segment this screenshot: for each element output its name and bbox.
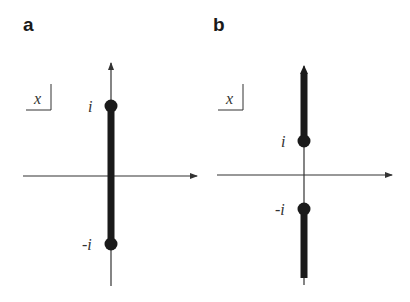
point-i-a: [105, 100, 118, 113]
label-i-a: i: [88, 98, 92, 115]
label-minus-i-a: -i: [82, 236, 92, 253]
point-minus-i-b: [298, 203, 311, 216]
variable-box-b: x: [218, 84, 243, 110]
variable-x-b: x: [225, 90, 233, 107]
variable-x-a: x: [33, 90, 41, 107]
panel-a: i -i x: [23, 63, 197, 286]
branch-cut-b-upper-arrow: [300, 65, 308, 74]
panel-b: i -i x: [217, 65, 392, 285]
point-i-b: [298, 135, 311, 148]
variable-box-a: x: [26, 84, 51, 110]
label-minus-i-b: -i: [275, 201, 285, 218]
point-minus-i-a: [105, 238, 118, 251]
diagram-canvas: i -i x i -i x: [0, 0, 410, 302]
label-i-b: i: [281, 133, 285, 150]
